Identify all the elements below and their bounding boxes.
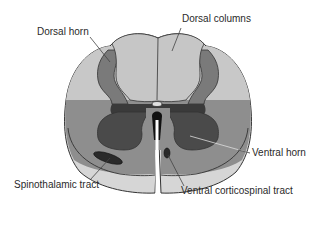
- central-canal: [152, 102, 162, 107]
- ventral-median-fissure: [156, 120, 159, 193]
- label-dorsal-columns: Dorsal columns: [182, 14, 251, 24]
- label-ventral-horn: Ventral horn: [252, 148, 306, 158]
- label-spinothalamic-tract: Spinothalamic tract: [14, 180, 99, 190]
- label-dorsal-horn: Dorsal horn: [37, 27, 89, 37]
- label-ventral-corticospinal-tract: Ventral corticospinal tract: [181, 186, 293, 196]
